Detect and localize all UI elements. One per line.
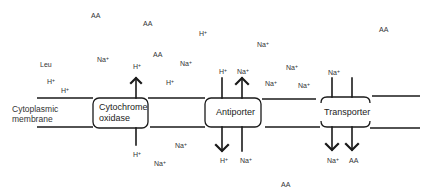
outside-proton-label: H+: [219, 68, 227, 76]
antiporter-label-text: Antiporter: [216, 107, 255, 118]
outside-sodium-label: Na+: [265, 80, 277, 88]
inside-amino-acid-label: AA: [349, 157, 358, 165]
outside-sodium-label: Na+: [298, 82, 310, 90]
outside-proton-label: H+: [133, 63, 141, 71]
membrane-label-line1: Cytoplasmic: [12, 104, 58, 114]
transporter-label: Transporter: [324, 107, 370, 118]
inside-proton-label: H+: [133, 151, 141, 159]
membrane-label: Cytoplasmic membrane: [12, 104, 58, 124]
outside-amino-acid-label: AA: [153, 51, 162, 59]
membrane-diagram: [0, 0, 432, 195]
outside-sodium-label: Na+: [180, 60, 192, 68]
outside-leucine-label: Leu: [40, 61, 52, 69]
inside-sodium-label: Na+: [240, 157, 252, 165]
transporter-label-text: Transporter: [324, 107, 370, 118]
outside-sodium-label: Na+: [286, 64, 298, 72]
outside-amino-acid-label: AA: [143, 20, 152, 28]
outside-sodium-label: Na+: [257, 41, 269, 49]
outside-sodium-label: Na+: [97, 56, 109, 64]
membrane-label-line2: membrane: [12, 114, 58, 124]
outside-sodium-label: Na+: [328, 69, 340, 77]
outside-proton-label: H+: [47, 78, 55, 86]
outside-proton-label: H+: [199, 30, 207, 38]
inside-sodium-label: Na+: [175, 142, 187, 150]
outside-proton-label: H+: [166, 79, 174, 87]
outside-amino-acid-label: AA: [379, 26, 388, 34]
cytochrome-oxidase-label: Cytochrome oxidase: [99, 102, 148, 124]
inside-sodium-label: Na+: [327, 157, 339, 165]
outside-proton-label: H+: [61, 87, 69, 95]
outside-amino-acid-label: AA: [91, 12, 100, 20]
inside-proton-label: H+: [220, 157, 228, 165]
antiporter-label: Antiporter: [216, 107, 255, 118]
inside-amino-acid-label: AA: [281, 181, 290, 189]
cytochrome-label-line1: Cytochrome: [99, 102, 148, 113]
inside-sodium-label: Na+: [154, 160, 166, 168]
outside-sodium-label: Na+: [237, 68, 249, 76]
cytochrome-label-line2: oxidase: [99, 113, 148, 124]
